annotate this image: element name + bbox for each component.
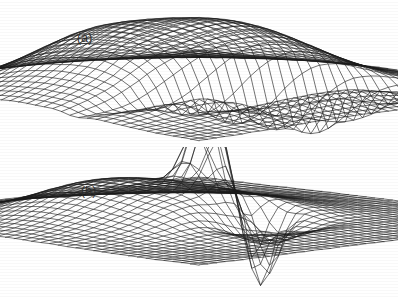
panel-label-a: (a) bbox=[77, 31, 93, 45]
surface-plot-panel-b bbox=[0, 147, 398, 297]
panel-label-b: (b) bbox=[81, 184, 97, 198]
figure-container: (a) (b) bbox=[0, 0, 398, 297]
surface-plot-panel-a bbox=[0, 0, 398, 150]
wireframe-mesh-a bbox=[0, 0, 398, 150]
wireframe-mesh-b bbox=[0, 147, 398, 297]
